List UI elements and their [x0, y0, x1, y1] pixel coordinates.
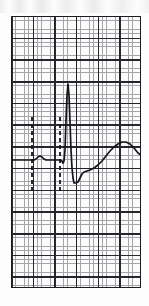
ecg-figure: [0, 0, 149, 306]
ecg-graph-paper: [11, 16, 141, 288]
scan-smudge-band: [0, 0, 149, 13]
caliper-markers: [11, 16, 141, 288]
